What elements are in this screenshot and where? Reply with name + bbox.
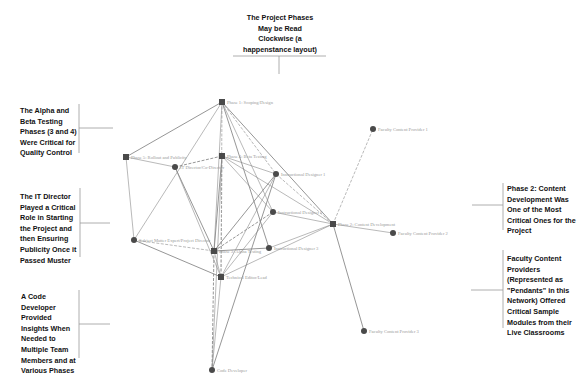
node-label: IT Director/Co-Director [180,165,225,170]
node-label: Phase 5: Rollout and Publicity [131,155,188,160]
node-itdir: IT Director/Co-Director [172,164,225,170]
edge-id1-p2 [276,174,333,224]
edge-id1-tech [221,174,276,277]
square-node-icon [211,248,217,254]
circle-node-icon [131,237,137,243]
node-p1: Phase 1: Scoping/Design [219,99,274,105]
node-id2: Instructional Designer 2 [270,209,323,215]
square-node-icon [219,153,225,159]
node-label: Phase 4: Beta Testing [227,154,267,159]
node-id1: Instructional Designer 1 [273,171,326,177]
network-nodes: Phase 1: Scoping/DesignPhase 5: Rollout … [123,99,449,373]
callout-faculty-providers: Faculty Content Providers (Represented a… [507,254,577,339]
callout-project-phases: The Project Phases May be Read Clockwise… [241,13,319,55]
callout-brackets [79,56,503,358]
node-label: Phase 1: Scoping/Design [227,100,274,105]
edge-p2-fc3 [333,224,364,331]
node-label: Faculty Content Provider 2 [398,231,449,236]
node-label: Phase 3: Alpha Testing [219,249,262,254]
edge-p2-fc1 [333,129,373,224]
node-label: Instructional Designer 3 [274,246,319,251]
circle-node-icon [390,230,396,236]
circle-node-icon [370,126,376,132]
node-label: Instructional Designer 2 [278,210,323,215]
node-fc1: Faculty Content Provider 1 [370,126,429,132]
edge-p1-p5 [126,102,222,157]
edge-sme-p1 [134,102,222,240]
node-fc3: Faculty Content Provider 3 [361,328,420,334]
circle-node-icon [273,171,279,177]
node-fc2: Faculty Content Provider 2 [390,230,449,236]
callout-phase-2: Phase 2: Content Development Was One of … [507,184,581,237]
circle-node-icon [361,328,367,334]
circle-node-icon [270,209,276,215]
square-node-icon [330,221,336,227]
node-p4: Phase 4: Beta Testing [219,153,267,159]
edge-p4-coder [212,156,222,370]
node-label: Phase 2: Content Development [338,222,396,227]
node-p5: Phase 5: Rollout and Publicity [123,154,188,160]
node-label: Code Developer [217,368,247,373]
edge-p1-id1 [222,102,276,174]
edge-id3-p2 [269,224,333,248]
edge-id2-tech [221,212,273,277]
network-edges [126,102,393,370]
node-id3: Instructional Designer 3 [266,245,319,251]
node-p2: Phase 2: Content Development [330,221,396,227]
square-node-icon [219,99,225,105]
node-label: Technical Editor/Lead [226,275,268,280]
node-label: Faculty Content Provider 1 [378,127,429,132]
node-p3: Phase 3: Alpha Testing [211,248,262,254]
edge-p5-sme [126,157,134,240]
node-tech: Technical Editor/Lead [218,274,268,280]
callout-code-developer: A Code Developer Provided Insights When … [21,292,79,377]
square-node-icon [123,154,129,160]
circle-node-icon [266,245,272,251]
square-node-icon [218,274,224,280]
edge-p1-p2 [222,102,333,224]
node-label: Subject Matter Expert/Project Director [139,238,211,243]
node-coder: Code Developer [209,367,247,373]
callout-it-director: The IT Director Played a Critical Role i… [20,192,78,266]
callout-alpha-beta-testing: The Alpha and Beta Testing Phases (3 and… [20,106,84,159]
circle-node-icon [172,164,178,170]
node-sme: Subject Matter Expert/Project Director [131,237,211,243]
network-diagram: Phase 1: Scoping/DesignPhase 5: Rollout … [0,0,583,386]
node-label: Instructional Designer 1 [281,172,326,177]
circle-node-icon [209,367,215,373]
node-label: Faculty Content Provider 3 [369,329,420,334]
